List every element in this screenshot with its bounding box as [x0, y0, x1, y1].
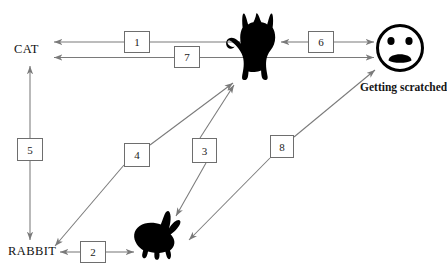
connector-4-upper [150, 83, 233, 145]
edge-box-7[interactable]: 7 [174, 46, 200, 68]
outcome-label-getting-scratched: Getting scratched [360, 81, 447, 93]
connector-4-lower [55, 165, 124, 246]
edge-box-2[interactable]: 2 [80, 241, 106, 263]
edge-box-8[interactable]: 8 [270, 135, 294, 158]
edge-box-1[interactable]: 1 [124, 31, 150, 53]
cat-silhouette-icon [226, 11, 288, 83]
edge-box-4[interactable]: 4 [124, 143, 150, 167]
diagram-connectors-layer [0, 0, 447, 278]
connector-3-upper [200, 85, 234, 138]
causal-diagram-canvas: CAT RABBIT Getting scratched 1 7 6 5 4 3… [0, 0, 447, 278]
edge-box-5[interactable]: 5 [17, 138, 43, 161]
node-label-cat: CAT [14, 42, 39, 57]
rabbit-silhouette-icon [131, 209, 189, 267]
edge-box-3[interactable]: 3 [192, 138, 217, 163]
connector-8-lower [189, 158, 270, 240]
node-label-rabbit: RABBIT [8, 244, 56, 259]
edge-box-6[interactable]: 6 [308, 31, 334, 53]
sad-face-icon [378, 26, 423, 71]
